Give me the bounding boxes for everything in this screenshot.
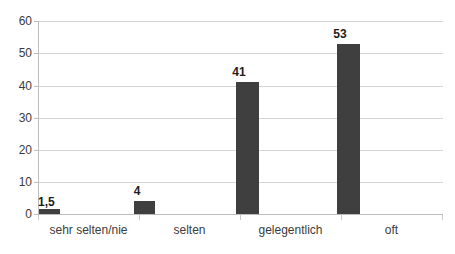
- y-axis-tick-label: 50: [2, 47, 32, 59]
- y-axis-tick-label: 30: [2, 112, 32, 124]
- x-axis-tick-mark: [240, 215, 241, 220]
- y-axis-tick-label: 60: [2, 15, 32, 27]
- y-axis-tick-label: 20: [2, 144, 32, 156]
- x-axis-tick-mark: [442, 215, 443, 220]
- plot-area: [38, 21, 443, 214]
- x-axis-tick-labels: sehr selten/nie selten gelegentlich oft: [38, 224, 443, 244]
- bar-selten[interactable]: [134, 201, 155, 214]
- y-axis-tick-label: 40: [2, 80, 32, 92]
- bar-oft[interactable]: [337, 44, 360, 214]
- x-axis-label-oft: oft: [341, 224, 442, 236]
- x-axis-label-gelegentlich: gelegentlich: [240, 224, 341, 236]
- x-axis-tick-mark: [38, 215, 39, 220]
- x-axis-label-sehr-selten-nie: sehr selten/nie: [38, 224, 139, 236]
- y-axis-tick-label: 10: [2, 176, 32, 188]
- bar-value-label-selten: 4: [119, 185, 155, 197]
- x-axis-tick-mark: [139, 215, 140, 220]
- y-axis-tick-label: 0: [2, 208, 32, 220]
- gridline: [38, 53, 443, 54]
- bar-value-label-oft: 53: [322, 28, 358, 40]
- x-axis-label-selten: selten: [139, 224, 240, 236]
- bar-value-label-sehr-selten-nie: 1,5: [38, 196, 68, 208]
- y-axis-line: [38, 21, 39, 215]
- bar-value-label-gelegentlich: 41: [221, 66, 257, 78]
- x-axis-tick-mark: [341, 215, 342, 220]
- bar-gelegentlich[interactable]: [236, 82, 259, 214]
- y-axis-tick-labels: 60 50 40 30 20 10 0: [0, 0, 32, 254]
- bar-chart: 60 50 40 30 20 10 0 1,5 4 41 53: [0, 0, 455, 254]
- gridline: [38, 21, 443, 22]
